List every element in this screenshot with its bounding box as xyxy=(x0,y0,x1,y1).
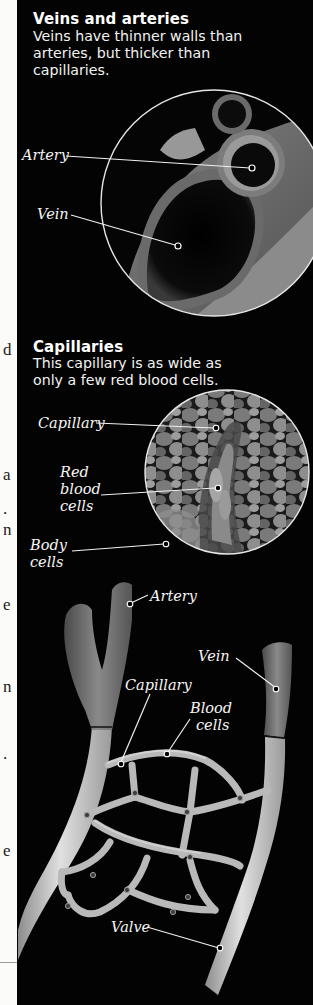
caption-line: arteries, but thicker than xyxy=(33,45,293,62)
label-line: blood xyxy=(60,481,101,498)
veins-arteries-heading: Veins and arteries xyxy=(33,11,189,28)
label-line: cells xyxy=(60,498,101,515)
page-divider-line xyxy=(0,962,17,963)
cut-off-text-fragment: e xyxy=(3,842,11,859)
vein-label: Vein xyxy=(37,206,69,223)
caption-line: capillaries. xyxy=(33,62,293,79)
caption-line: only a few red blood cells. xyxy=(33,372,293,389)
label-line: Red xyxy=(60,464,101,481)
capillaries-heading: Capillaries xyxy=(33,339,123,356)
cut-off-text-fragment: n xyxy=(3,678,12,695)
caption-line: This capillary is as wide as xyxy=(33,355,293,372)
body-cells-label: Body cells xyxy=(30,537,67,571)
capillaries-caption: This capillary is as wide as only a few … xyxy=(33,355,293,389)
label-line: cells xyxy=(190,717,232,734)
red-blood-cells-label: Red blood cells xyxy=(60,464,101,515)
label-line: Body xyxy=(30,537,67,554)
capillary-label: Capillary xyxy=(38,415,105,432)
artery-label: Artery xyxy=(22,147,69,164)
cut-off-text-fragment: e xyxy=(3,596,11,613)
caption-line: Veins have thinner walls than xyxy=(33,28,293,45)
network-valve-label: Valve xyxy=(111,919,150,936)
cut-off-text-fragment: . xyxy=(3,745,7,762)
label-line: cells xyxy=(30,554,67,571)
cut-off-text-fragment: . xyxy=(3,500,7,517)
veins-arteries-caption: Veins have thinner walls than arteries, … xyxy=(33,28,293,79)
network-artery-label: Artery xyxy=(150,588,197,605)
cut-off-text-fragment: d xyxy=(3,341,12,358)
network-vein-label: Vein xyxy=(198,648,230,665)
cut-off-text-fragment: n xyxy=(3,521,12,538)
label-line: Blood xyxy=(190,700,232,717)
cut-off-text-fragment: a xyxy=(3,466,11,483)
network-capillary-label: Capillary xyxy=(125,677,192,694)
adjacent-page-strip: d a . n e n . e xyxy=(0,0,17,1005)
network-blood-cells-label: Blood cells xyxy=(190,700,232,734)
